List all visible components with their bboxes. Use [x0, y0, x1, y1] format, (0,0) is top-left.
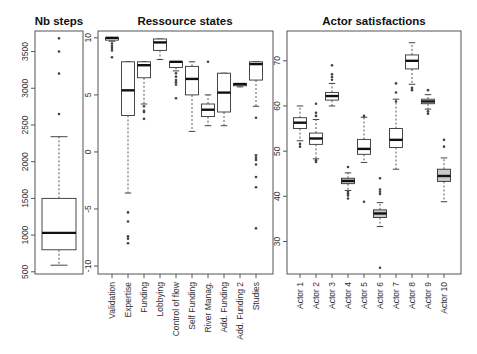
outlier-point — [379, 193, 382, 196]
outlier-point — [111, 42, 114, 45]
y-tick-label: 10 — [83, 33, 93, 43]
outlier-point — [379, 188, 382, 191]
outlier-point — [143, 111, 146, 114]
outlier-point — [255, 227, 258, 230]
x-category-label: Actor 3 — [327, 282, 337, 309]
x-category-label: Actor 4 — [343, 282, 353, 309]
outlier-point — [331, 73, 334, 76]
outlier-point — [379, 266, 382, 269]
outlier-point — [175, 72, 178, 75]
outlier-point — [111, 56, 114, 59]
box-add-funding-2 — [234, 83, 247, 86]
box-validation — [106, 38, 119, 59]
y-tick-label: 40 — [272, 191, 282, 201]
outlier-point — [255, 116, 258, 119]
outlier-point — [331, 78, 334, 81]
x-category-label: Lobbying — [155, 282, 165, 317]
outlier-point — [363, 200, 366, 203]
outlier-point — [395, 91, 398, 94]
outlier-point — [58, 50, 61, 53]
outlier-point — [395, 82, 398, 85]
y-tick-label: 500 — [20, 264, 30, 278]
box-self-funding — [186, 62, 199, 132]
outlier-point — [255, 186, 258, 189]
outlier-point — [143, 105, 146, 108]
outlier-point — [315, 102, 318, 105]
iqr-box — [186, 66, 199, 95]
outlier-point — [143, 118, 146, 121]
outlier-point — [175, 97, 178, 100]
box-actor-2 — [310, 102, 323, 163]
outlier-point — [379, 190, 382, 193]
outlier-point — [331, 76, 334, 79]
box-actor-9 — [422, 89, 435, 115]
x-category-label: Actor 1 — [295, 282, 305, 309]
outlier-point — [255, 156, 258, 159]
outlier-point — [427, 110, 430, 113]
box-add-funding — [218, 73, 231, 125]
outlier-point — [175, 81, 178, 84]
y-tick-label: 50 — [272, 146, 282, 156]
outlier-point — [58, 72, 61, 75]
outlier-point — [299, 145, 302, 148]
outlier-point — [58, 37, 61, 40]
y-tick-label: 1500 — [20, 189, 30, 208]
y-tick-label: 5 — [83, 92, 93, 97]
outlier-point — [363, 115, 366, 118]
outlier-point — [255, 159, 258, 162]
panel-title: Ressource states — [137, 15, 232, 27]
y-tick-label: 0 — [83, 149, 93, 154]
x-category-label: Expertise — [123, 282, 133, 318]
box-control-of-flow — [170, 62, 183, 100]
y-tick-label: 70 — [272, 56, 282, 66]
iqr-box — [358, 139, 371, 154]
outlier-point — [127, 242, 130, 245]
outlier-point — [315, 161, 318, 164]
x-category-label: River Manag. — [203, 282, 213, 333]
x-category-label: Studies — [251, 282, 261, 310]
x-category-label: Control of flow — [171, 281, 181, 336]
y-tick-label: 3000 — [20, 79, 30, 98]
outlier-point — [299, 143, 302, 146]
box-actor-6 — [374, 177, 387, 269]
x-category-label: Actor 9 — [423, 282, 433, 309]
box-expertise — [122, 62, 135, 245]
outlier-point — [255, 154, 258, 157]
iqr-box — [154, 39, 167, 50]
boxplot-figure: Nb steps 500100015002000250030003500 Res… — [0, 0, 477, 354]
outlier-point — [315, 111, 318, 114]
box-actor-8 — [406, 43, 419, 92]
outlier-point — [207, 61, 210, 64]
x-category-label: Validation — [107, 282, 117, 319]
outlier-point — [127, 235, 130, 238]
iqr-box — [42, 198, 76, 249]
outlier-point — [111, 47, 114, 50]
y-tick-label: -10 — [83, 260, 93, 273]
outlier-point — [395, 100, 398, 103]
box-actor-3 — [326, 64, 339, 106]
panel-ressource-states: Ressource states -10-50510ValidationExpe… — [83, 15, 273, 340]
box-river-manag- — [202, 61, 215, 126]
y-tick-label: 2000 — [20, 152, 30, 171]
outlier-point — [411, 89, 414, 92]
x-category-label: Actor 6 — [375, 282, 385, 309]
y-tick-label: -5 — [83, 205, 93, 213]
box-actor-1 — [294, 106, 307, 148]
outlier-point — [127, 237, 130, 240]
x-category-label: Actor 8 — [407, 282, 417, 309]
panel-title: Nb steps — [35, 15, 84, 27]
outlier-point — [443, 145, 446, 148]
x-category-label: Actor 5 — [359, 282, 369, 309]
outlier-point — [379, 177, 382, 180]
iqr-box — [122, 62, 135, 116]
x-category-label: Add. Funding — [219, 282, 229, 333]
panel-nb-steps: Nb steps 500100015002000250030003500 — [20, 15, 83, 279]
box-actor-4 — [342, 166, 355, 200]
figure: Nb steps 500100015002000250030003500 Res… — [0, 0, 477, 354]
x-category-label: Actor 10 — [439, 282, 449, 314]
outlier-point — [175, 79, 178, 82]
y-tick-label: 2500 — [20, 115, 30, 134]
iqr-box — [390, 129, 403, 148]
x-category-label: Add. Funding 2 — [235, 282, 245, 340]
outlier-point — [443, 139, 446, 142]
